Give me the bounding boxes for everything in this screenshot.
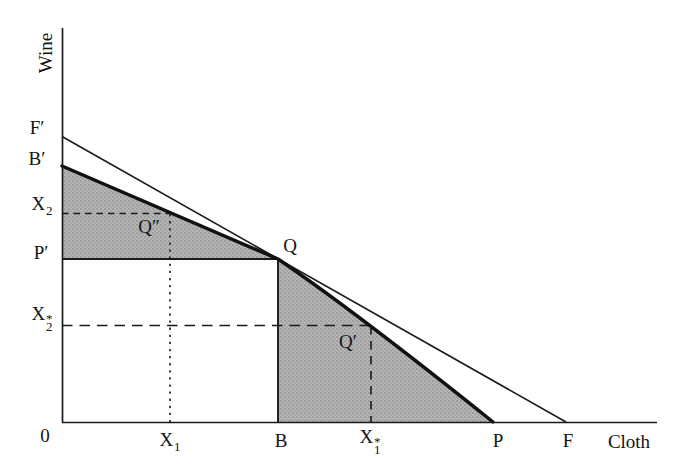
- x-axis-title: Cloth: [608, 432, 650, 451]
- axis-label-p: P: [493, 431, 504, 450]
- axis-label-x1-star: X*1: [359, 427, 380, 452]
- axis-label-x2: X2: [31, 194, 52, 217]
- y-axis-title: Wine: [36, 33, 55, 73]
- point-label-q: Q: [283, 236, 297, 255]
- origin-label: 0: [40, 426, 50, 445]
- axis-label-f: F: [563, 431, 574, 450]
- axis-label-b: B: [275, 431, 288, 450]
- wine-cloth-trade-diagram: Wine Cloth F′ B′ X2 P′ X*2 0 X1 B X*1 P …: [0, 0, 689, 472]
- point-label-q-double-prime: Q″: [138, 217, 160, 236]
- axis-label-x1: X1: [159, 430, 180, 453]
- point-label-q-prime: Q′: [339, 332, 357, 351]
- axis-label-b-prime: B′: [29, 149, 46, 168]
- diagram-canvas: [0, 0, 689, 472]
- axis-label-x2-star: X*2: [31, 304, 52, 329]
- axis-label-f-prime: F′: [30, 118, 45, 137]
- axis-label-p-prime: P′: [34, 243, 49, 262]
